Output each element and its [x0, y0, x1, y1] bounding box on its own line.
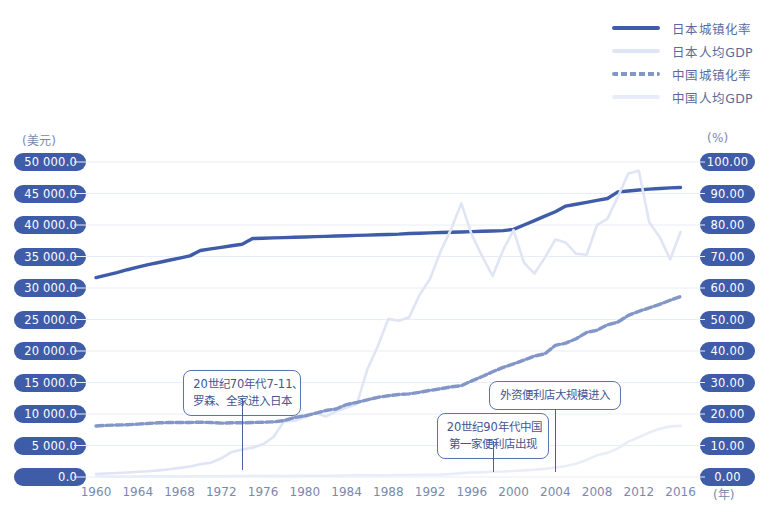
annotation-leader-line — [555, 409, 556, 472]
legend-item-label: 日本城镇化率 — [672, 19, 752, 38]
x-axis-tick: 2012 — [624, 485, 655, 499]
annotation-text: 20世纪90年代中国 — [447, 419, 539, 436]
right-axis-tick: 70.00 — [700, 248, 755, 266]
right-axis-tick: 40.00 — [700, 342, 755, 360]
x-axis-tick: 1984 — [331, 485, 362, 499]
legend-item[interactable]: 中国人均GDP — [612, 89, 753, 105]
x-axis-tick: 1996 — [457, 485, 488, 499]
legend-item-label: 中国人均GDP — [672, 88, 753, 107]
x-axis-tick: 2008 — [582, 485, 613, 499]
x-axis-tick: 1992 — [415, 485, 446, 499]
right-axis-unit: (%) — [707, 131, 728, 145]
right-axis-tick: 100.00 — [700, 153, 755, 171]
right-axis-tick: 0.00 — [700, 468, 755, 486]
annotation-leader-line — [493, 441, 494, 472]
x-axis-tick: 1964 — [122, 485, 153, 499]
left-axis-unit: (美元) — [22, 131, 56, 148]
right-axis-tick: 80.00 — [700, 216, 755, 234]
series-line — [96, 188, 681, 278]
legend-swatch-icon — [612, 72, 660, 76]
chart-legend: 日本城镇化率日本人均GDP中国城镇化率中国人均GDP — [612, 20, 753, 105]
legend-item[interactable]: 中国城镇化率 — [612, 66, 753, 82]
right-axis-tick: 10.00 — [700, 437, 755, 455]
annotation-text: 20世纪70年代7-11、 — [193, 376, 291, 393]
series-line — [96, 426, 681, 477]
x-axis-tick: 2004 — [540, 485, 571, 499]
x-axis-tick: 1988 — [373, 485, 404, 499]
x-axis-tick: 1976 — [248, 485, 279, 499]
legend-item[interactable]: 日本人均GDP — [612, 43, 753, 59]
x-axis-tick: 1960 — [81, 485, 112, 499]
legend-swatch-icon — [612, 95, 660, 99]
legend-item-label: 日本人均GDP — [672, 42, 753, 61]
series-line — [96, 171, 681, 474]
right-axis-tick: 20.00 — [700, 405, 755, 423]
legend-item[interactable]: 日本城镇化率 — [612, 20, 753, 36]
x-axis-tick: 1980 — [289, 485, 320, 499]
legend-swatch-icon — [612, 26, 660, 30]
annotation-text: 外资便利店大规模进入 — [499, 387, 611, 404]
x-axis-tick: 1968 — [164, 485, 195, 499]
x-axis-tick: 1972 — [206, 485, 237, 499]
x-axis-tick: 2016 — [665, 485, 696, 499]
chart-root: 日本城镇化率日本人均GDP中国城镇化率中国人均GDP (美元) (%) 50 0… — [0, 0, 773, 525]
right-axis-tick: 60.00 — [700, 279, 755, 297]
legend-item-label: 中国城镇化率 — [672, 65, 752, 84]
x-axis-unit: (年) — [713, 485, 734, 502]
annotation-leader-line — [242, 398, 243, 470]
plot-area — [96, 162, 691, 477]
x-axis-tick: 2000 — [498, 485, 529, 499]
annotation-box[interactable]: 外资便利店大规模进入 — [489, 381, 621, 410]
right-axis-tick: 90.00 — [700, 185, 755, 203]
right-axis-tick: 50.00 — [700, 311, 755, 329]
plot-svg — [96, 162, 691, 477]
right-axis-tick: 30.00 — [700, 374, 755, 392]
legend-swatch-icon — [612, 49, 660, 53]
